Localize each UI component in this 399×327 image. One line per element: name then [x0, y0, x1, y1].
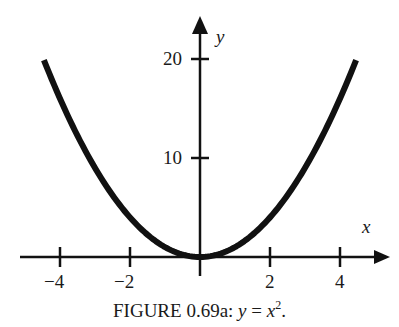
x-axis-label: x: [362, 217, 370, 236]
figure-caption: FIGURE 0.69a: y = x2.: [0, 298, 399, 322]
x-tick-label-neg2: −2: [114, 272, 134, 291]
y-axis-label: y: [216, 27, 224, 46]
caption-suffix: .: [281, 300, 286, 321]
x-tick-label-2: 2: [265, 272, 275, 291]
y-axis-arrow-icon: [192, 16, 208, 34]
caption-lhs: y: [238, 300, 246, 321]
x-axis-arrow-icon: [374, 250, 390, 264]
y-tick-label-20: 20: [163, 49, 182, 68]
caption-prefix: FIGURE 0.69a:: [113, 300, 238, 321]
caption-rhs: x: [267, 300, 275, 321]
x-tick-label-neg4: −4: [44, 272, 64, 291]
caption-equals: =: [247, 300, 267, 321]
x-tick-label-4: 4: [335, 272, 345, 291]
y-tick-label-10: 10: [163, 148, 182, 167]
